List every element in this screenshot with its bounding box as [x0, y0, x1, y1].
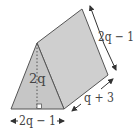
height-label: 2q: [29, 71, 46, 86]
slant-edge-label: 2q − 1: [98, 29, 134, 44]
base-label: 2q − 1: [19, 113, 56, 128]
right-angle-marker: [37, 104, 42, 109]
slant-edge-arrow-2: [104, 44, 116, 70]
triangular-prism-diagram: 2q 2q − 1 2q − 1 q + 3: [0, 0, 135, 133]
length-label: q + 3: [84, 90, 114, 105]
length-arrow-lower: [72, 104, 81, 111]
length-arrow-upper: [101, 79, 113, 89]
